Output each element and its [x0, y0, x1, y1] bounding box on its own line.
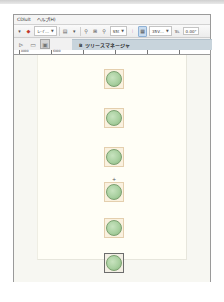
tab-document-icon: B	[79, 40, 82, 51]
pointer-tool-icon[interactable]: ⊳	[16, 39, 26, 49]
ruler-tick	[115, 50, 117, 54]
tree-node-2[interactable]	[104, 108, 124, 128]
tree-node-3[interactable]	[104, 147, 124, 167]
tab-label: ツリースマネージャ	[85, 40, 130, 51]
tab-tree-manager[interactable]: B ツリースマネージャ	[72, 39, 212, 50]
screen-top-edge	[0, 0, 224, 4]
rotation-icon: ℡	[174, 27, 181, 36]
grid-toggle-icon[interactable]: ▦	[138, 26, 147, 37]
size-dropdown[interactable]: 35V… ▼	[149, 26, 172, 36]
toolbar-divider	[80, 27, 81, 36]
dropdown-arrow-icon[interactable]: ▾	[71, 27, 78, 36]
layer-dropdown[interactable]: レイ… ▼	[34, 26, 57, 36]
tree-node-4[interactable]	[104, 182, 124, 202]
menu-item-help[interactable]: ヘルプ(H)	[37, 15, 56, 24]
ruler-tick: 8000	[19, 50, 29, 54]
menu-bar: CDlult ヘルプ(H)	[14, 15, 210, 25]
dropdown-arrow-icon[interactable]: ▾	[16, 27, 23, 36]
circle-node-icon	[106, 110, 122, 126]
view-toggle-icon[interactable]: ▣	[40, 39, 50, 49]
app-window: CDlult ヘルプ(H) ▾ ◆ レイ… ▼ ▤ ▾ ⚲ ⊞ ⚲ S5t ▼ …	[13, 14, 211, 282]
zoom-fit-icon[interactable]: ⊞	[92, 27, 99, 36]
zoom-out-icon[interactable]: ⚲	[101, 27, 108, 36]
size-dropdown-value: 35V…	[152, 29, 164, 34]
zoom-in-icon[interactable]: ⚲	[83, 27, 90, 36]
tree-node-6-selected[interactable]	[104, 253, 124, 273]
chevron-down-icon: ▼	[121, 29, 124, 33]
color-picker-icon[interactable]: ⁞	[129, 27, 136, 36]
circle-node-icon	[106, 220, 122, 236]
circle-node-icon	[106, 255, 122, 271]
circle-node-icon	[106, 149, 122, 165]
menu-item-1[interactable]: CDlult	[17, 15, 31, 24]
tab-strip: ⊳ ▭ ▣ B ツリースマネージャ	[14, 38, 210, 50]
layer-color-icon[interactable]: ◆	[25, 27, 32, 36]
chevron-down-icon: ▼	[51, 29, 54, 33]
page-area: +	[37, 55, 187, 260]
layer-dropdown-value: レイ…	[37, 28, 49, 34]
tree-node-1[interactable]	[104, 69, 124, 89]
ruler-tick: 6000	[51, 50, 61, 54]
tree-node-5[interactable]	[104, 218, 124, 238]
page-icon[interactable]: ▤	[62, 27, 69, 36]
zoom-dropdown-value: S5t	[113, 29, 120, 34]
folder-icon[interactable]: ▭	[28, 39, 38, 49]
rotation-field[interactable]: 0.00°	[183, 27, 199, 35]
ruler-tick	[179, 50, 181, 54]
ruler-tick	[83, 50, 85, 54]
zoom-dropdown[interactable]: S5t ▼	[110, 26, 127, 36]
circle-node-icon	[106, 184, 122, 200]
chevron-down-icon: ▼	[166, 29, 169, 33]
drawing-canvas[interactable]: +	[14, 55, 210, 282]
toolbar: ▾ ◆ レイ… ▼ ▤ ▾ ⚲ ⊞ ⚲ S5t ▼ ⁞ ▦ 35V… ▼ ℡ 0…	[14, 25, 210, 38]
ruler-tick	[147, 50, 149, 54]
toolbar-divider	[59, 27, 60, 36]
circle-node-icon	[106, 71, 122, 87]
